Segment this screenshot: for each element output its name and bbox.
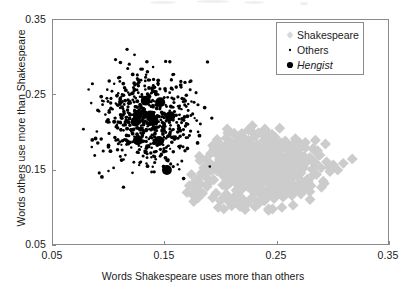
data-point-others bbox=[126, 108, 129, 111]
legend-item-hengist: Hengist bbox=[283, 57, 363, 72]
data-point-others bbox=[196, 103, 199, 106]
data-point-others bbox=[155, 93, 158, 96]
data-point-others bbox=[187, 103, 189, 105]
data-point-others bbox=[128, 93, 131, 96]
data-point-others bbox=[182, 133, 185, 136]
data-point-others bbox=[176, 137, 179, 140]
data-point-others bbox=[163, 87, 167, 91]
data-point-others bbox=[145, 140, 148, 143]
data-point-others bbox=[137, 91, 140, 94]
data-point-others bbox=[115, 94, 119, 98]
data-point-others bbox=[176, 130, 179, 133]
data-point-others bbox=[170, 87, 173, 90]
data-point-others bbox=[91, 82, 94, 85]
data-point-others bbox=[172, 73, 175, 76]
data-point-shakespeare bbox=[274, 123, 285, 134]
data-point-others bbox=[90, 146, 93, 149]
data-point-others bbox=[99, 95, 103, 99]
data-point-others bbox=[123, 123, 127, 127]
data-point-others bbox=[161, 132, 165, 136]
data-point-others bbox=[166, 96, 169, 99]
data-point-others bbox=[113, 83, 115, 85]
data-point-others bbox=[126, 116, 128, 118]
data-point-others bbox=[172, 135, 176, 139]
data-point-others bbox=[142, 154, 145, 157]
data-point-others bbox=[164, 60, 167, 63]
data-point-others bbox=[90, 138, 94, 142]
data-point-others bbox=[118, 80, 121, 83]
data-point-others bbox=[130, 146, 132, 148]
data-point-others bbox=[110, 90, 113, 93]
data-point-others bbox=[160, 129, 164, 133]
data-point-others bbox=[116, 126, 120, 130]
data-point-others bbox=[147, 145, 150, 148]
data-point-others bbox=[179, 147, 181, 149]
data-point-others bbox=[93, 154, 96, 157]
data-point-others bbox=[105, 120, 109, 124]
circle-marker-icon bbox=[283, 58, 297, 72]
data-point-others bbox=[109, 101, 112, 104]
data-point-others bbox=[162, 150, 166, 154]
data-point-others bbox=[123, 99, 127, 103]
data-point-others bbox=[135, 126, 139, 130]
data-point-others bbox=[107, 79, 111, 83]
data-point-others bbox=[105, 97, 108, 100]
data-point-others bbox=[189, 79, 192, 82]
data-point-others bbox=[109, 107, 112, 110]
data-point-others bbox=[175, 121, 178, 124]
data-point-others bbox=[153, 170, 156, 173]
data-point-others bbox=[157, 115, 160, 118]
data-point-others bbox=[126, 67, 129, 70]
data-point-others bbox=[183, 81, 186, 84]
data-point-others bbox=[125, 127, 129, 131]
data-point-others bbox=[139, 95, 142, 98]
data-point-others bbox=[190, 100, 192, 102]
data-point-others bbox=[197, 131, 200, 134]
data-point-others bbox=[141, 133, 145, 137]
data-point-others bbox=[152, 78, 155, 81]
data-point-others bbox=[119, 101, 123, 105]
data-point-others bbox=[141, 68, 144, 71]
data-point-others bbox=[122, 108, 125, 111]
data-point-others bbox=[104, 113, 107, 116]
data-point-others bbox=[178, 118, 181, 121]
data-point-others bbox=[146, 156, 149, 159]
data-point-others bbox=[206, 60, 209, 63]
data-point-others bbox=[101, 99, 104, 101]
data-point-others bbox=[158, 87, 161, 90]
data-point-others bbox=[164, 156, 168, 160]
y-axis-label: Words others use more than Shakespeare bbox=[15, 15, 27, 241]
data-point-others bbox=[172, 165, 175, 168]
data-point-others bbox=[132, 86, 135, 89]
data-point-others bbox=[146, 164, 150, 168]
data-point-others bbox=[185, 105, 188, 108]
data-point-others bbox=[128, 99, 131, 102]
data-point-others bbox=[198, 134, 202, 138]
data-point-others bbox=[137, 84, 140, 87]
data-point-others bbox=[125, 48, 128, 51]
data-point-others bbox=[107, 132, 110, 135]
data-point-others bbox=[98, 110, 101, 113]
data-point-hengist bbox=[149, 116, 159, 126]
data-point-others bbox=[124, 154, 127, 157]
data-point-others bbox=[120, 158, 124, 162]
data-point-others bbox=[144, 80, 147, 83]
data-point-others bbox=[157, 84, 160, 87]
data-point-others bbox=[180, 121, 183, 124]
data-point-others bbox=[100, 175, 104, 179]
data-point-others bbox=[145, 60, 149, 64]
data-point-others bbox=[126, 105, 129, 108]
data-point-others bbox=[138, 128, 142, 132]
scan-artifact bbox=[150, 1, 176, 4]
data-point-others bbox=[172, 150, 176, 154]
data-point-others bbox=[189, 129, 192, 132]
data-point-others bbox=[135, 105, 138, 108]
data-point-others bbox=[180, 97, 183, 100]
data-point-others bbox=[102, 149, 105, 152]
data-point-others bbox=[169, 135, 172, 138]
data-point-others bbox=[144, 88, 147, 91]
data-point-others bbox=[169, 162, 172, 165]
data-point-others bbox=[176, 95, 179, 98]
data-point-others bbox=[112, 166, 115, 169]
data-point-others bbox=[90, 102, 93, 105]
